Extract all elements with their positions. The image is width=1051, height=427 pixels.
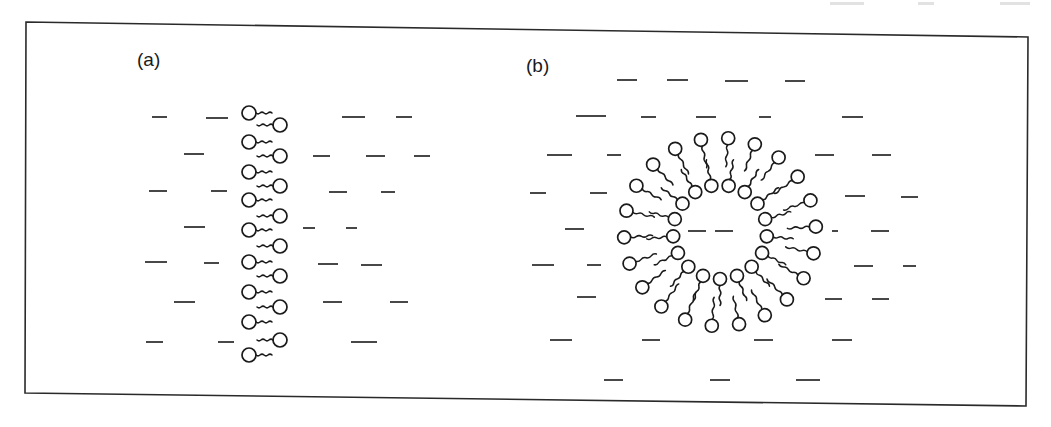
lipid-vesicle-b — [618, 132, 823, 332]
hydrocarbon-tail — [256, 141, 272, 143]
hydrocarbon-tail — [745, 150, 753, 171]
lipid-molecule — [775, 170, 805, 193]
lipid-molecule — [786, 247, 820, 260]
polar-head-icon — [273, 149, 287, 163]
lipid-molecule — [242, 106, 272, 120]
polar-head-icon — [705, 319, 718, 332]
hydrocarbon-tail — [256, 291, 272, 293]
polar-head-icon — [679, 313, 692, 326]
lipid-molecule — [257, 300, 287, 314]
polar-head-icon — [676, 197, 689, 210]
hydrocarbon-tail — [779, 264, 798, 275]
lipid-molecule — [661, 188, 689, 210]
hydrocarbon-tail — [649, 212, 668, 218]
hydrocarbon-tail — [257, 339, 273, 341]
lipid-molecule — [751, 290, 771, 322]
panel-b-vesicle — [530, 80, 918, 380]
polar-head-icon — [242, 255, 256, 269]
polar-head-icon — [242, 348, 256, 362]
lipid-molecule — [620, 204, 654, 217]
hydrocarbon-tail — [642, 189, 661, 200]
polar-head-icon — [667, 230, 680, 243]
panel-label-b: (b) — [526, 55, 549, 77]
polar-head-icon — [689, 186, 702, 199]
hydrocarbon-tail — [256, 112, 272, 114]
polar-head-icon — [273, 118, 287, 132]
polar-head-icon — [242, 193, 256, 207]
hydrocarbon-tail — [786, 247, 808, 252]
hydrocarbon-tail — [257, 124, 273, 126]
lipid-molecule — [649, 212, 681, 226]
lipid-bilayer-a — [242, 106, 287, 362]
polar-head-icon — [242, 165, 256, 179]
hydrocarbon-tail — [631, 235, 653, 238]
polar-head-icon — [714, 273, 727, 286]
hydrocarbon-tail — [658, 169, 673, 185]
figure-border — [25, 22, 1028, 406]
lipid-molecule — [242, 285, 272, 299]
lipid-molecule — [242, 223, 272, 237]
lipid-molecule — [242, 315, 272, 329]
lipid-molecule — [738, 170, 758, 199]
hydrocarbon-tail — [712, 297, 714, 319]
polar-head-icon — [804, 194, 817, 207]
lipid-molecule — [654, 246, 684, 264]
polar-head-icon — [759, 213, 772, 226]
polar-head-icon — [705, 179, 718, 192]
lipid-molecule — [745, 260, 769, 286]
lipid-molecule — [733, 296, 746, 330]
hydrocarbon-tail — [678, 155, 688, 175]
hydrocarbon-tail — [706, 160, 711, 180]
lipid-molecule — [257, 149, 287, 163]
polar-head-icon — [791, 170, 804, 183]
panel-label-a: (a) — [137, 49, 160, 71]
hydrocarbon-tail — [761, 163, 775, 181]
polar-head-icon — [636, 281, 649, 294]
lipid-molecule — [647, 158, 673, 185]
lipid-molecule — [784, 194, 817, 210]
hydrocarbon-tail — [256, 199, 272, 201]
polar-head-icon — [242, 285, 256, 299]
lipid-molecule — [623, 254, 656, 270]
lipid-molecule — [669, 142, 689, 174]
polar-head-icon — [273, 179, 287, 193]
hydrocarbon-tail — [681, 170, 692, 187]
polar-head-icon — [242, 106, 256, 120]
hydrocarbon-tail — [748, 170, 759, 187]
hydrocarbon-tail — [256, 171, 272, 173]
hydrocarbon-tail — [661, 188, 677, 200]
polar-head-icon — [809, 220, 822, 233]
hydrocarbon-tail — [726, 145, 728, 167]
hydrocarbon-tail — [257, 275, 273, 277]
lipid-molecule — [647, 230, 680, 243]
lipid-molecule — [671, 260, 695, 286]
solvent-dashes-b — [530, 80, 918, 380]
lipid-molecule — [618, 231, 653, 244]
lipid-molecule — [257, 209, 287, 223]
polar-head-icon — [273, 300, 287, 314]
scan-artifact — [1000, 2, 1030, 5]
hydrocarbon-tail — [773, 237, 793, 239]
hydrocarbon-tail — [256, 229, 272, 231]
polar-head-icon — [738, 186, 751, 199]
hydrocarbon-tail — [647, 236, 667, 239]
hydrocarbon-tail — [688, 293, 696, 314]
polar-head-icon — [273, 239, 287, 253]
polar-head-icon — [722, 179, 735, 192]
hydrocarbon-tail — [654, 256, 672, 265]
polar-head-icon — [273, 333, 287, 347]
hydrocarbon-tail — [256, 321, 272, 323]
lipid-molecule — [655, 284, 679, 313]
polar-head-icon — [733, 318, 746, 331]
hydrocarbon-tail — [768, 256, 786, 265]
lipid-molecule — [751, 188, 779, 210]
polar-head-icon — [694, 133, 707, 146]
polar-head-icon — [730, 269, 743, 282]
hydrocarbon-tail — [733, 296, 738, 318]
hydrocarbon-tail — [784, 202, 805, 210]
polar-head-icon — [758, 309, 771, 322]
hydrocarbon-tail — [256, 354, 272, 356]
lipid-molecule — [257, 333, 287, 347]
polar-head-icon — [751, 197, 764, 210]
scan-artifact — [830, 2, 864, 5]
